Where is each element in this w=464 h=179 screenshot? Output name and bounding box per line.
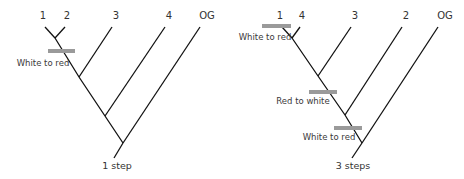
change-label: White to red (239, 32, 292, 42)
change-label: White to red (303, 132, 356, 142)
taxon-label: OG (437, 10, 453, 21)
taxon-label: 2 (403, 10, 409, 21)
branch-og (123, 27, 200, 143)
steps-label: 3 steps (336, 160, 371, 171)
main-spine (55, 38, 123, 143)
taxon-label: 2 (64, 10, 70, 21)
taxon-label: 3 (352, 10, 358, 21)
branch-4 (105, 27, 165, 116)
tree-one-step: 1234OGWhite to red1 step (17, 10, 215, 171)
taxon-label: 1 (40, 10, 46, 21)
branch-4 (292, 27, 300, 38)
branch-2 (345, 27, 402, 115)
branch-2 (55, 27, 65, 38)
change-label: Red to white (276, 96, 329, 106)
branch-3 (318, 27, 351, 76)
taxon-label: 4 (166, 10, 172, 21)
tree-three-steps: 1432OGWhite to redRed to whiteWhite to r… (239, 10, 453, 171)
branch-3 (79, 27, 112, 77)
branch-og (362, 27, 438, 143)
taxon-label: 3 (113, 10, 119, 21)
change-label: White to red (17, 58, 70, 68)
root-stem (352, 143, 362, 158)
branch-1 (45, 27, 55, 38)
steps-label: 1 step (102, 160, 132, 171)
taxon-label: OG (199, 10, 215, 21)
root-stem (114, 143, 123, 158)
taxon-label: 1 (277, 10, 283, 21)
taxon-label: 4 (299, 10, 305, 21)
phylogeny-diagram: 1234OGWhite to red1 step 1432OGWhite to … (0, 0, 464, 179)
